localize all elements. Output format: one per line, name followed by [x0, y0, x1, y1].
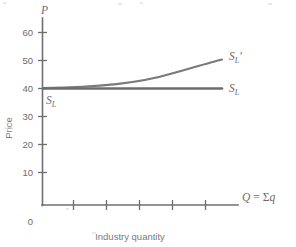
y-tick-label-10: 10: [22, 167, 33, 178]
y-tick-label-50: 50: [22, 55, 33, 66]
q-small-glyph: q: [270, 191, 276, 204]
y-tick-label-20: 20: [22, 139, 33, 150]
l-subscript-glyph: L: [234, 88, 240, 97]
supply-curve-rising: [43, 60, 222, 89]
l-subscript-glyph: L: [51, 100, 57, 109]
prime-glyph: ′: [239, 50, 242, 62]
y-tick-label-0: 0: [28, 216, 33, 227]
y-axis-title: Price: [3, 117, 14, 139]
supply-curve-flat-label: SL: [229, 82, 240, 97]
q-glyph: Q: [242, 191, 251, 203]
y-tick-label-30: 30: [22, 111, 33, 122]
x-axis-title: Industry quantity: [95, 231, 165, 242]
supply-curve-rising-label: SL′: [229, 50, 242, 65]
x-axis-symbol-label: Q=Σq: [242, 191, 276, 204]
y-axis-symbol-label: P: [40, 4, 48, 16]
supply-curve-flat-origin-label: SL: [46, 94, 57, 109]
equals-glyph: =: [253, 191, 260, 203]
supply-curve-figure: 60 50 40 30 20 10 0 P Price SL SL′ SL Q=…: [0, 0, 296, 247]
y-tick-label-40: 40: [22, 83, 33, 94]
y-tick-label-60: 60: [22, 27, 33, 38]
chart-svg: 60 50 40 30 20 10 0 P Price SL SL′ SL Q=…: [0, 0, 296, 247]
scan-artifacts: [3, 2, 272, 234]
